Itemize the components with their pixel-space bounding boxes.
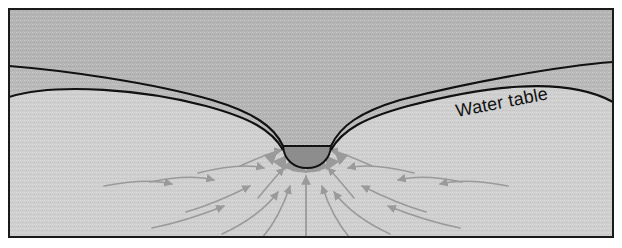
diagram-body: Water table (9, 9, 613, 238)
groundwater-cross-section-figure: Water table (0, 0, 622, 248)
cross-section-svg: Water table (0, 0, 622, 248)
paper-texture (9, 9, 613, 237)
